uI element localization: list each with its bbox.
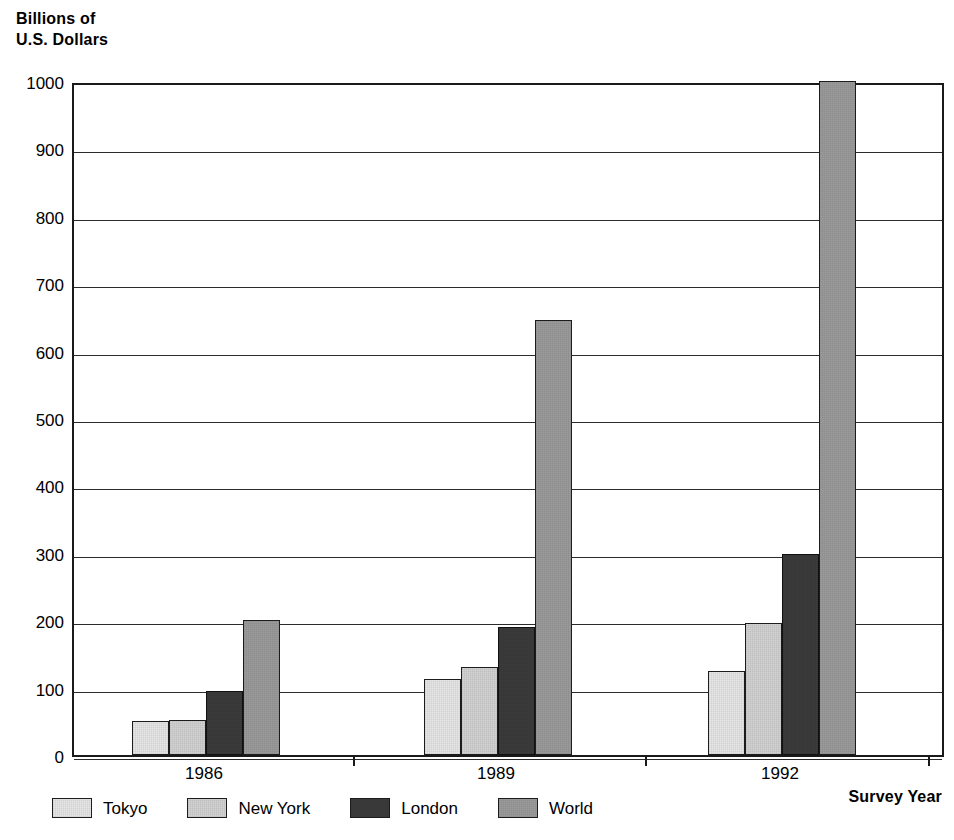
bar-chart: Billions of U.S. Dollars 100090080070060…: [0, 0, 954, 840]
x-axis-tick: [645, 757, 647, 766]
y-tick-label: 600: [4, 345, 64, 362]
legend-swatch-icon: [498, 798, 538, 818]
legend-swatch-icon: [187, 798, 227, 818]
legend-item-tokyo[interactable]: Tokyo: [52, 798, 147, 818]
bar: [535, 320, 572, 755]
bar: [243, 620, 280, 755]
bar: [461, 667, 498, 755]
bar: [424, 679, 461, 755]
legend-label: World: [549, 800, 593, 817]
x-tick-label: 1986: [144, 764, 264, 784]
y-tick-label: 200: [4, 614, 64, 631]
legend-label: Tokyo: [103, 800, 147, 817]
x-axis-tick: [928, 757, 930, 766]
y-axis-tick-labels: 10009008007006005004003002001000: [0, 83, 64, 757]
y-tick-label: 500: [4, 412, 64, 429]
bar: [132, 721, 169, 755]
x-axis-tick: [353, 757, 355, 766]
x-axis-title: Survey Year: [848, 788, 942, 806]
x-tick-label: 1992: [720, 764, 840, 784]
legend-item-new-york[interactable]: New York: [187, 798, 310, 818]
y-tick-label: 300: [4, 547, 64, 564]
x-tick-label: 1989: [436, 764, 556, 784]
legend-label: New York: [238, 800, 310, 817]
y-tick-label: 1000: [4, 75, 64, 92]
bar: [782, 554, 819, 755]
gridline: [74, 759, 942, 760]
y-tick-label: 100: [4, 682, 64, 699]
legend-item-world[interactable]: World: [498, 798, 593, 818]
plot-area: [72, 83, 944, 757]
y-tick-label: 900: [4, 142, 64, 159]
bar: [745, 623, 782, 755]
legend-swatch-icon: [350, 798, 390, 818]
bars-layer: [74, 85, 942, 755]
y-tick-label: 0: [4, 749, 64, 766]
y-tick-label: 800: [4, 210, 64, 227]
bar-group: [424, 85, 572, 755]
legend-item-london[interactable]: London: [350, 798, 458, 818]
chart-legend: TokyoNew YorkLondonWorld: [52, 798, 633, 818]
bar: [819, 81, 856, 755]
bar-group: [708, 85, 856, 755]
legend-label: London: [401, 800, 458, 817]
bar: [708, 671, 745, 755]
y-tick-label: 400: [4, 479, 64, 496]
bar: [206, 691, 243, 755]
bar: [498, 627, 535, 755]
bar-group: [132, 85, 280, 755]
legend-swatch-icon: [52, 798, 92, 818]
y-tick-label: 700: [4, 277, 64, 294]
bar: [169, 720, 206, 755]
y-axis-title: Billions of U.S. Dollars: [16, 8, 108, 50]
